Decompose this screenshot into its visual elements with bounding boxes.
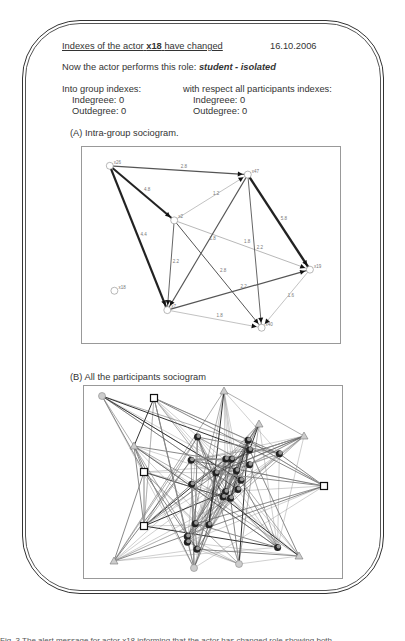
participant-node: [236, 561, 243, 568]
edge-x26-x2: [110, 166, 174, 221]
edge-label: 2.2: [241, 284, 248, 289]
node-x47: [244, 171, 251, 178]
edge-x2-x47: [174, 175, 248, 221]
edge-arrowhead: [258, 318, 263, 323]
edge-label: 1.8: [210, 236, 217, 241]
sociogram-b-title: (B) All the participants sociogram: [70, 372, 206, 382]
participant-node: [141, 469, 148, 476]
participant-node-highlight: [235, 468, 239, 472]
participant-node: [151, 395, 158, 402]
participant-node: [220, 387, 228, 394]
participant-node-highlight: [194, 521, 198, 525]
network-edge: [239, 556, 299, 564]
edge-x7-x40: [167, 310, 261, 328]
edge-label: 2.8: [220, 268, 227, 273]
alert-date: 16.10.2006: [270, 41, 317, 51]
edge-label: 2.2: [257, 245, 264, 250]
node-x2: [171, 217, 178, 224]
participant-node-highlight: [277, 544, 281, 548]
edge-x19-x40: [262, 270, 310, 328]
sociogram-a-title: (A) Intra-group sociogram.: [70, 128, 179, 138]
participant-node-highlight: [247, 437, 251, 441]
figure-caption: Fig. 3 The alert message for actor x18 i…: [0, 634, 405, 641]
network-edge: [144, 437, 198, 526]
edge-arrowhead: [251, 323, 256, 328]
participant-node-highlight: [222, 494, 226, 498]
participant-node: [130, 442, 138, 449]
edge-label: 1.6: [288, 293, 295, 298]
edge-arrowhead: [238, 177, 244, 182]
node-label: x19: [314, 264, 322, 269]
sociogram-a-graph: 2.84.84.41.21.82.22.81.82.25.82.21.81.6x…: [82, 147, 340, 343]
title-suffix: have changed: [164, 41, 222, 51]
node-label: x47: [252, 169, 260, 174]
edge-label: 5.8: [281, 216, 288, 221]
title-prefix: Indexes of the actor: [62, 41, 144, 51]
participant-node-highlight: [249, 462, 253, 466]
role-value: student - isolated: [199, 62, 276, 72]
edge-label: 4.8: [144, 187, 151, 192]
network-edge: [191, 460, 192, 484]
node-x40: [258, 324, 265, 331]
edge-x47-x19: [248, 175, 310, 270]
role-line: Now the actor performs this role: studen…: [62, 62, 276, 72]
participant-node-highlight: [229, 495, 233, 499]
participant-node-highlight: [278, 451, 282, 455]
alert-title: Indexes of the actor x18 have changed: [62, 41, 223, 51]
network-edges: [102, 391, 324, 568]
group-indexes-heading: Into group indexes:: [62, 84, 141, 94]
node-label: x40: [266, 322, 274, 327]
participant-node-highlight: [225, 489, 229, 493]
node-label: x18: [118, 285, 126, 290]
network-edge: [134, 446, 194, 568]
edge-label: 2.8: [181, 164, 188, 169]
participant-node-highlight: [230, 456, 234, 460]
network-edge: [102, 396, 134, 446]
all-indegree: Indegreee: 0: [193, 95, 245, 105]
participant-node-highlight: [197, 434, 201, 438]
participant-node-highlight: [237, 486, 241, 490]
edge-label: 1.8: [244, 239, 251, 244]
edge-arrowhead: [166, 300, 171, 305]
node-x7: [164, 307, 171, 314]
participant-node: [141, 523, 148, 530]
network-edge: [224, 391, 304, 436]
network-edge: [154, 398, 187, 536]
edge-label: 2.2: [173, 259, 180, 264]
participant-node-highlight: [190, 457, 194, 461]
participant-node-highlight: [249, 447, 253, 451]
participant-node: [300, 432, 308, 439]
sociogram-b-panel: [83, 385, 343, 579]
participant-node-highlight: [208, 522, 212, 526]
participant-node: [191, 565, 198, 572]
participant-node-highlight: [215, 470, 219, 474]
node-label: x26: [114, 160, 122, 165]
edge-x2-x7: [167, 220, 174, 310]
participant-node-highlight: [191, 481, 195, 485]
participant-node: [255, 420, 263, 427]
network-edge: [154, 398, 248, 440]
node-x18: [111, 287, 118, 294]
node-label: x7: [171, 304, 176, 309]
all-outdegree: Outdegree: 0: [193, 106, 247, 116]
network-edge: [216, 436, 304, 473]
participant-node-highlight: [240, 477, 244, 481]
participant-node-highlight: [196, 546, 200, 550]
all-indexes-heading: with respect all participants indexes:: [183, 84, 332, 94]
group-indegree: Indegreee: 0: [72, 95, 124, 105]
sociogram-a-panel: 2.84.84.41.21.82.22.81.82.25.82.21.81.6x…: [81, 146, 341, 344]
participant-node-highlight: [225, 456, 229, 460]
edge-label: 4.4: [141, 232, 148, 237]
participant-node-highlight: [186, 533, 190, 537]
participant-node: [99, 393, 106, 400]
edge-label: 1.8: [216, 313, 223, 318]
edge-x26-x47: [110, 166, 248, 175]
actor-id: x18: [146, 41, 162, 51]
edge-label: 1.2: [213, 191, 220, 196]
node-label: x2: [178, 214, 183, 219]
edge-arrowhead: [238, 171, 243, 176]
edge-x7-x19: [167, 270, 310, 310]
network-edge: [278, 454, 280, 548]
node-x19: [306, 266, 313, 273]
participant-node-highlight: [186, 539, 190, 543]
